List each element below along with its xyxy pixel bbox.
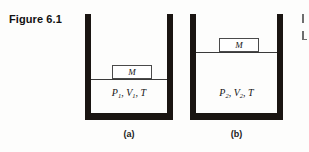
gas-volume-symbol-b: V [234, 87, 240, 98]
container-wall-right-b [277, 14, 283, 120]
gas-container-b: M P2, V2, T [190, 14, 283, 120]
clipped-mark-upper [302, 14, 304, 23]
gas-volume-subscript-a: 1 [132, 92, 135, 99]
clipped-mark-lower-foot [302, 39, 307, 40]
figure-title: Figure 6.1 [9, 13, 62, 25]
subcaption-b: (b) [190, 129, 283, 139]
gas-pressure-subscript-b: 2 [225, 92, 228, 99]
gas-container-a: M P1, V1, T [85, 14, 173, 120]
mass-block-b: M [219, 38, 259, 52]
mass-block-label-b: M [235, 41, 243, 50]
figure-container: Figure 6.1 M P1, V1, T (a) M P2, V2, T (… [0, 0, 309, 152]
gas-state-label-b: P2, V2, T [190, 87, 283, 98]
piston-surface-b [196, 52, 277, 53]
gas-temperature-symbol-a: T [141, 87, 147, 98]
container-wall-left-a [85, 14, 91, 120]
gas-state-label-a: P1, V1, T [85, 87, 173, 98]
container-wall-bottom-b [190, 113, 283, 120]
container-wall-left-b [190, 14, 196, 120]
gas-temperature-symbol-b: T [248, 87, 254, 98]
mass-block-a: M [112, 65, 152, 79]
container-wall-bottom-a [85, 113, 173, 120]
gas-pressure-subscript-a: 1 [118, 92, 121, 99]
mass-block-label-a: M [128, 68, 136, 77]
container-wall-right-a [167, 14, 173, 120]
subcaption-a: (a) [85, 129, 173, 139]
gas-volume-subscript-b: 2 [240, 92, 243, 99]
piston-surface-a [91, 79, 167, 80]
